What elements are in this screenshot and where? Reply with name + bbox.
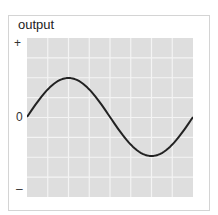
y-tick-minus: –: [16, 183, 23, 195]
plot-area: [27, 38, 193, 197]
chart-title: output: [18, 18, 54, 32]
y-tick-zero: 0: [16, 111, 23, 123]
y-tick-plus: +: [14, 37, 21, 49]
sine-chart: [27, 38, 193, 197]
